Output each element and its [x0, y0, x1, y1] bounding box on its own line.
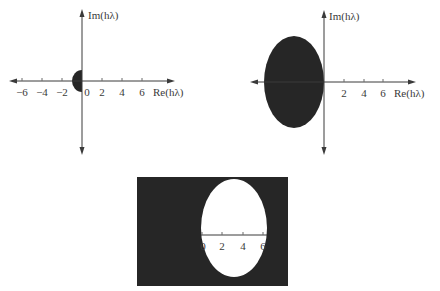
tick-label: 6: [260, 240, 266, 252]
stability-regions-figure: −6 −4 −2 0 2 4 6 Re(hλ) Im(hλ): [0, 0, 440, 291]
imaginary-axis-arrow-up-icon: [322, 10, 327, 18]
panel-a: −6 −4 −2 0 2 4 6 Re(hλ) Im(hλ): [9, 9, 184, 155]
tick-label: −4: [36, 86, 48, 98]
imaginary-axis-label: Im(hλ): [88, 9, 119, 22]
tick-label: 2: [99, 86, 105, 98]
real-axis-arrow-right-icon: [408, 80, 416, 85]
tick-label: 6: [380, 87, 386, 99]
tick-label: 6: [139, 86, 145, 98]
tick-label: −2: [56, 86, 68, 98]
real-axis-arrow-left-icon: [9, 79, 17, 84]
real-axis-label: Re(hλ): [153, 86, 184, 99]
tick-label: 2: [341, 87, 347, 99]
tick-label: 0: [200, 240, 206, 252]
tick-label: 4: [240, 240, 246, 252]
imaginary-axis-arrow-down-icon: [322, 147, 327, 155]
tick-label: −6: [16, 86, 28, 98]
instability-region-ellipse: [201, 179, 267, 277]
tick-label: 4: [361, 87, 367, 99]
tick-label: 0: [84, 86, 90, 98]
tick-label: 2: [219, 240, 225, 252]
imaginary-axis-arrow-up-icon: [80, 9, 85, 17]
imaginary-axis-label: Im(hλ): [329, 10, 360, 23]
imaginary-axis-arrow-down-icon: [80, 147, 85, 155]
real-axis-tick-labels: 2 4 6: [341, 87, 386, 99]
tick-label: 4: [119, 86, 125, 98]
real-axis-arrow-right-icon: [167, 79, 175, 84]
panel-c: 0 2 4 6: [137, 177, 288, 286]
real-axis-arrow-left-icon: [250, 80, 258, 85]
real-axis-label: Re(hλ): [394, 87, 425, 100]
panel-b: 2 4 6 Re(hλ) Im(hλ): [250, 10, 425, 155]
